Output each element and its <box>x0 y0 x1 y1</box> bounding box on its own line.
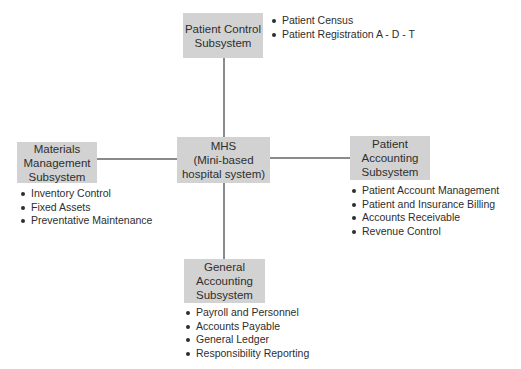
bullet-icon <box>352 189 356 193</box>
patient-accounting-subsystem-node: Patient Accounting Subsystem <box>350 136 430 180</box>
bullet-icon <box>21 192 25 196</box>
materials-management-items: Inventory Control Fixed Assets Preventat… <box>20 187 152 228</box>
bullet-icon <box>352 216 356 220</box>
general-accounting-subsystem-node: General Accounting Subsystem <box>184 259 265 303</box>
list-item: Patient Census <box>271 14 415 28</box>
patient-accounting-items: Patient Account Management Patient and I… <box>351 184 499 238</box>
general-accounting-items: Payroll and Personnel Accounts Payable G… <box>185 306 309 360</box>
list-item: Accounts Receivable <box>351 211 499 225</box>
list-item: Accounts Payable <box>185 320 309 334</box>
list-item: Patient and Insurance Billing <box>351 198 499 212</box>
list-item: Responsibility Reporting <box>185 347 309 361</box>
list-item: Patient Account Management <box>351 184 499 198</box>
patient-accounting-label: Patient Accounting Subsystem <box>362 137 419 179</box>
list-item: General Ledger <box>185 333 309 347</box>
bullet-icon <box>186 325 190 329</box>
list-item: Preventative Maintenance <box>20 214 152 228</box>
connector-bottom <box>223 183 225 259</box>
connector-left <box>97 158 177 160</box>
connector-top <box>223 58 225 137</box>
bullet-icon <box>21 219 25 223</box>
general-accounting-label: General Accounting Subsystem <box>196 260 253 302</box>
bullet-icon <box>186 352 190 356</box>
bullet-icon <box>352 230 356 234</box>
list-item: Inventory Control <box>20 187 152 201</box>
bullet-icon <box>186 311 190 315</box>
list-item: Patient Registration A - D - T <box>271 28 415 42</box>
connector-right <box>270 157 350 159</box>
bullet-icon <box>186 338 190 342</box>
materials-management-subsystem-node: Materials Management Subsystem <box>17 142 97 183</box>
bullet-icon <box>272 19 276 23</box>
patient-control-items: Patient Census Patient Registration A - … <box>271 14 415 41</box>
materials-management-label: Materials Management Subsystem <box>23 142 90 184</box>
list-item: Payroll and Personnel <box>185 306 309 320</box>
patient-control-subsystem-node: Patient Control Subsystem <box>183 13 263 58</box>
list-item: Fixed Assets <box>20 201 152 215</box>
bullet-icon <box>352 203 356 207</box>
bullet-icon <box>272 33 276 37</box>
bullet-icon <box>21 206 25 210</box>
patient-control-label: Patient Control Subsystem <box>185 22 261 50</box>
mhs-center-node: MHS (Mini-based hospital system) <box>177 137 270 183</box>
list-item: Revenue Control <box>351 225 499 239</box>
mhs-center-label: MHS (Mini-based hospital system) <box>182 139 265 181</box>
